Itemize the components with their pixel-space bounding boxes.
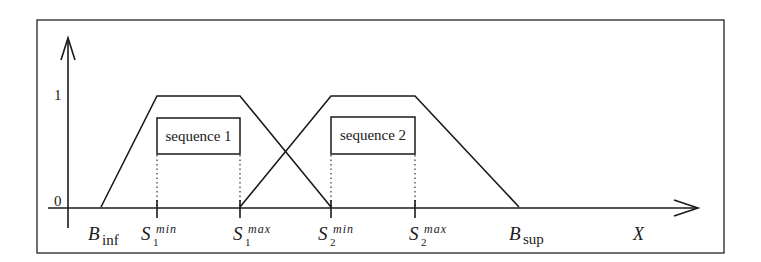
svg-text:inf: inf [102,232,119,248]
svg-text:S: S [318,223,328,244]
y-tick-label-1: 1 [54,87,62,103]
label-b-inf: B inf [88,223,119,248]
svg-text:S: S [233,223,243,244]
fuzzy-sequence-diagram: 1 0 sequence 1 sequence 2 B inf B sup S … [0,0,761,262]
label-s2-min: S 2 min [318,222,354,248]
sequence-1-label: sequence 1 [165,128,231,144]
label-s2-max: S 2 max [409,222,447,248]
sequence-2-label: sequence 2 [340,127,406,143]
svg-text:min: min [333,222,354,236]
label-s1-max: S 1 max [233,222,271,248]
x-axis-label: X [632,224,645,244]
svg-text:B: B [509,223,521,244]
svg-text:S: S [409,223,419,244]
svg-text:max: max [248,222,271,236]
svg-text:min: min [156,222,177,236]
svg-text:2: 2 [421,236,427,248]
svg-text:sup: sup [523,231,544,247]
sequence-1-box: sequence 1 [157,118,240,154]
svg-text:1: 1 [245,236,251,248]
label-b-sup: B sup [509,223,544,247]
svg-text:S: S [141,223,151,244]
label-s1-min: S 1 min [141,222,177,248]
y-tick-label-0: 0 [54,193,62,209]
svg-text:max: max [424,222,447,236]
svg-text:2: 2 [330,236,336,248]
svg-text:1: 1 [153,236,159,248]
svg-text:B: B [88,223,100,244]
sequence-2-box: sequence 2 [331,117,415,154]
